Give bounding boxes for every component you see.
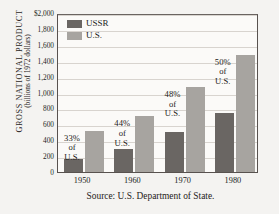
source-note: Source: U.S. Department of State.: [0, 191, 279, 202]
bar-group: [159, 15, 209, 172]
bar-us-1980[interactable]: [236, 55, 255, 172]
y-axis-tick-label: 200: [24, 153, 54, 160]
x-axis-tick-label: 1960: [107, 176, 157, 185]
y-axis-tick-labels: 02004006008001,0001,2001,4001,6001,800$2…: [24, 14, 54, 173]
bar-group: [58, 15, 108, 172]
y-axis-tick-label: 1,200: [24, 74, 54, 81]
y-axis-tick-label: 800: [24, 106, 54, 113]
bar-ussr-1960[interactable]: [114, 149, 133, 172]
bar-group: [108, 15, 158, 172]
bars-layer: 33%ofU.S.44%ofU.S.48%ofU.S.50%ofU.S.: [58, 15, 257, 172]
y-axis-tick-label: $2,000: [24, 10, 54, 17]
bar-ussr-1970[interactable]: [165, 132, 184, 172]
y-axis-tick-label: 1,000: [24, 90, 54, 97]
y-axis-tick-label: 1,800: [24, 26, 54, 33]
bar-us-1960[interactable]: [135, 116, 154, 172]
bar-ussr-1980[interactable]: [215, 113, 234, 172]
y-axis-tick-label: 0: [24, 169, 54, 176]
y-axis-tick-label: 400: [24, 138, 54, 145]
bar-group: [209, 15, 259, 172]
y-axis-tick-label: 1,600: [24, 42, 54, 49]
gnp-comparison-bar-chart: GROSS NATIONAL PRODUCT (billions of 1972…: [0, 0, 279, 214]
x-axis-tick-label: 1950: [57, 176, 107, 185]
bar-ussr-1950[interactable]: [64, 159, 83, 173]
y-axis-tick-label: 1,400: [24, 58, 54, 65]
x-axis-tick-label: 1980: [208, 176, 258, 185]
y-axis-tick-label: 600: [24, 122, 54, 129]
bar-us-1950[interactable]: [85, 131, 104, 172]
bar-us-1970[interactable]: [186, 87, 205, 172]
x-axis-tick-labels: 1950196019701980: [57, 176, 258, 188]
plot-area: USSRU.S. 33%ofU.S.44%ofU.S.48%ofU.S.50%o…: [57, 14, 258, 173]
x-axis-tick-label: 1970: [158, 176, 208, 185]
